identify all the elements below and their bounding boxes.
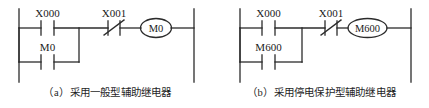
- ladder-schematic-b: X000 X001 M600 M600: [214, 0, 429, 86]
- label-x000-a: X000: [35, 7, 60, 19]
- ladder-panel-a: X000 X001 M0 M0 （a）采用一般型辅助继电器: [0, 0, 215, 108]
- label-m0-branch-a: M0: [40, 41, 56, 53]
- ladder-panel-b: X000 X001 M600 M600 （b）采用停电保护型辅助继电器: [214, 0, 429, 108]
- caption-a-text: 采用一般型辅助继电器: [70, 87, 172, 98]
- caption-b-index: （b）: [247, 87, 274, 98]
- caption-b: （b）采用停电保护型辅助继电器: [214, 86, 429, 100]
- caption-a-index: （a）: [43, 87, 69, 98]
- ladder-schematic-a: X000 X001 M0 M0: [0, 0, 215, 86]
- label-m600-branch-b: M600: [255, 41, 282, 53]
- caption-a: （a）采用一般型辅助继电器: [0, 86, 215, 100]
- label-x000-b: X000: [256, 7, 281, 19]
- label-x001-b: X001: [319, 7, 343, 19]
- caption-b-text: 采用停电保护型辅助继电器: [274, 87, 396, 98]
- label-m600-coil-b: M600: [355, 23, 380, 34]
- label-m0-coil-a: M0: [149, 23, 164, 34]
- ladder-diagram-figure: X000 X001 M0 M0 （a）采用一般型辅助继电器: [0, 0, 429, 108]
- label-x001-a: X001: [102, 7, 126, 19]
